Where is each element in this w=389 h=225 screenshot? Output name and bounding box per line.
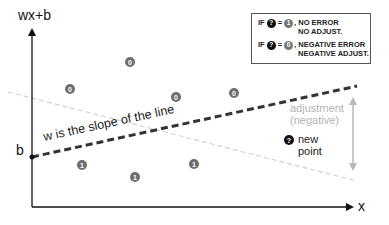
question-point-icon: ? <box>267 19 276 28</box>
point-class-0: 0 <box>229 88 239 98</box>
point-class-1: 1 <box>77 160 87 170</box>
class-1-points: 1 1 1 <box>77 159 199 182</box>
class-0-point-icon: 0 <box>284 41 293 50</box>
question-point-icon: ? <box>267 41 276 50</box>
point-class-0: 0 <box>125 57 135 67</box>
point-class-1: 1 <box>130 172 140 182</box>
legend-box: IF ? = 1 , NO ERROR NO ADJUST. IF ? = 0 … <box>251 13 371 64</box>
y-axis-label: wx+b <box>18 7 51 23</box>
svg-text:0: 0 <box>174 94 178 101</box>
legend-equals: = <box>278 41 282 50</box>
new-point-label-line2: point <box>298 145 322 157</box>
legend-text-line2: NO ADJUST. <box>294 28 342 37</box>
legend-text-line2: NEGATIVE ADJUST. <box>294 50 369 59</box>
class-0-points: 0 0 0 0 <box>65 57 239 102</box>
adjustment-label: adjustment (negative) <box>290 102 344 126</box>
class-1-point-icon: 1 <box>284 19 293 28</box>
legend-equals: = <box>278 19 282 28</box>
svg-text:1: 1 <box>192 161 196 168</box>
perceptron-diagram: 0 0 0 0 1 1 1 ? wx+b x b w is the slope … <box>0 0 389 225</box>
new-point-label: new point <box>298 133 322 157</box>
point-class-0: 0 <box>171 92 181 102</box>
intercept-label: b <box>16 142 24 158</box>
new-point: ? <box>284 135 294 145</box>
point-class-0: 0 <box>65 84 75 94</box>
adjustment-label-line2: (negative) <box>290 114 344 126</box>
svg-text:1: 1 <box>133 174 137 181</box>
point-class-1: 1 <box>189 159 199 169</box>
svg-text:0: 0 <box>232 90 236 97</box>
legend-if-label: IF <box>258 41 265 50</box>
legend-if-label: IF <box>258 19 265 28</box>
svg-text:0: 0 <box>128 59 132 66</box>
adjustment-label-line1: adjustment <box>290 102 344 114</box>
legend-row-class-1: IF ? = 1 , NO ERROR NO ADJUST. <box>258 19 342 36</box>
svg-text:0: 0 <box>68 86 72 93</box>
new-point-label-line1: new <box>298 133 322 145</box>
x-axis-label: x <box>358 198 365 214</box>
legend-row-class-0: IF ? = 0 , NEGATIVE ERROR NEGATIVE ADJUS… <box>258 41 369 58</box>
intercept-dot <box>30 155 35 160</box>
svg-text:1: 1 <box>80 162 84 169</box>
svg-text:?: ? <box>287 137 291 144</box>
